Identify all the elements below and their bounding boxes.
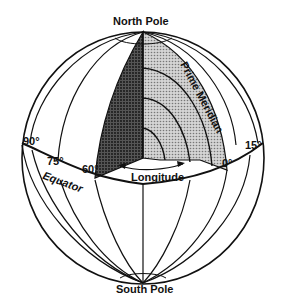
meridian-lower-5 bbox=[143, 180, 190, 283]
degree-60-label: 60° bbox=[82, 164, 99, 175]
longitude-label: Longitude bbox=[131, 172, 184, 183]
degree-90-label: 90° bbox=[23, 136, 40, 147]
dark-wedge bbox=[95, 32, 143, 178]
north-pole-label: North Pole bbox=[113, 16, 169, 27]
degree-15-label: 15° bbox=[245, 140, 262, 151]
degree-0-label: 0° bbox=[222, 158, 233, 169]
globe-diagram bbox=[0, 0, 281, 302]
arrow-head-right bbox=[177, 161, 185, 167]
south-pole-label: South Pole bbox=[116, 284, 173, 295]
degree-75-label: 75° bbox=[47, 156, 64, 167]
longitude-arrow bbox=[120, 164, 183, 170]
